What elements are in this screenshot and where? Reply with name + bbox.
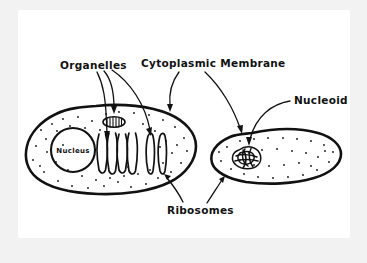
diagram-scene: Nucleus (0, 0, 367, 263)
ribosomes-arrows (167, 178, 222, 203)
golgi-apparatus (146, 133, 166, 174)
prokaryotic-cell (211, 129, 341, 183)
eukaryotic-cell: Nucleus (26, 105, 196, 194)
nucleoid (232, 147, 260, 169)
ribosomes-label: Ribosomes (167, 204, 234, 216)
organelles-label: Organelles (60, 59, 127, 71)
cytoplasmic-membrane-label: Cytoplasmic Membrane (141, 57, 286, 69)
nucleoid-arrowhead (246, 137, 252, 146)
nucleoid-label: Nucleoid (294, 94, 348, 106)
diagram-canvas: Nucleus (0, 0, 367, 263)
prokaryotic-ribosome-dots (218, 137, 334, 179)
prokaryotic-membrane (211, 129, 341, 183)
nucleus-label: Nucleus (56, 147, 89, 155)
endoplasmic-reticulum (97, 133, 137, 174)
